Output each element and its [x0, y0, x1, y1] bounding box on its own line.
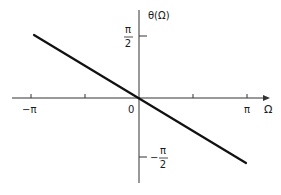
y-label-pos-num: π — [125, 24, 131, 35]
phase-plot: θ(Ω) Ω 0 −π π π 2 − π 2 — [0, 0, 281, 195]
y-label-pos-den: 2 — [125, 38, 131, 49]
phase-line — [34, 35, 246, 163]
origin-label: 0 — [128, 104, 134, 115]
x-label-neg-pi: −π — [22, 104, 36, 115]
y-ticks — [139, 36, 147, 157]
y-axis-label: θ(Ω) — [148, 10, 170, 21]
y-label-neg-sign: − — [150, 152, 158, 163]
x-label-pi: π — [244, 104, 250, 115]
x-axis-arrow-icon — [263, 95, 270, 101]
y-label-neg-num: π — [160, 145, 166, 156]
x-axis-label: Ω — [264, 103, 272, 116]
y-label-neg-den: 2 — [160, 159, 166, 170]
